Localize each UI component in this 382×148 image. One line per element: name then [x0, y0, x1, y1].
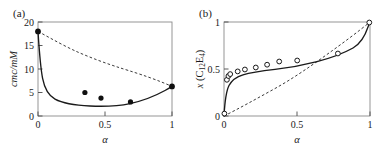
panel-a-axes-frame: [38, 22, 172, 116]
panel-b-ytick-1: 1: [215, 17, 220, 28]
panel-a-xtick-0.5: 0.5: [99, 119, 112, 130]
panel-a-point: [82, 90, 87, 95]
panel-a-point: [169, 84, 175, 90]
panel-b-point: [243, 67, 248, 72]
panel-b-point: [265, 62, 270, 67]
panel-b: (b) 0 0.5 1 0 0.5 1 α: [191, 0, 382, 148]
panel-a-ytick-15: 15: [24, 40, 34, 51]
panel-a-point: [98, 96, 103, 101]
panel-b-point: [253, 65, 258, 70]
panel-b-ytick-0.5: 0.5: [208, 64, 221, 75]
panel-b-data-points: [222, 20, 372, 116]
panel-a-ytick-0: 0: [29, 111, 34, 122]
panel-b-ytick-0: 0: [215, 111, 220, 122]
panel-a-ytick-10: 10: [24, 64, 34, 75]
panel-a-point: [35, 29, 41, 35]
panel-b-xtick-1: 1: [368, 119, 373, 130]
figure-container: (a) 0 5 10 15 20 0 0.5: [0, 0, 382, 148]
panel-a-xtick-1: 1: [170, 119, 175, 130]
panel-b-point: [336, 51, 341, 56]
panel-a-yaxis-title: cmc/mM: [8, 50, 19, 87]
panel-a-ytick-5: 5: [29, 87, 34, 98]
panel-b-point: [222, 111, 227, 116]
panel-b-point: [367, 20, 372, 25]
panel-b-yaxis-paren-open: (C: [194, 70, 206, 83]
panel-b-xaxis-title: α: [294, 134, 300, 145]
panel-a-ideal-mixing-curve: [38, 31, 172, 86]
panel-b-xtick-0: 0: [222, 119, 227, 130]
panel-a-point: [128, 99, 133, 104]
panel-b-plot: (b) 0 0.5 1 0 0.5 1 α: [191, 0, 382, 148]
panel-a-x-ticks: [38, 112, 172, 117]
panel-b-x-ticks: [224, 112, 370, 117]
panel-b-point: [228, 72, 233, 77]
panel-b-point: [235, 69, 240, 74]
panel-b-point: [277, 59, 282, 64]
panel-b-point: [295, 58, 300, 63]
panel-a-fit-curve: [38, 31, 172, 106]
panel-a: (a) 0 5 10 15 20 0 0.5: [0, 0, 191, 148]
panel-b-xtick-0.5: 0.5: [291, 119, 304, 130]
panel-a-xaxis-title: α: [102, 134, 108, 145]
panel-a-plot: (a) 0 5 10 15 20 0 0.5: [0, 0, 191, 148]
panel-a-data-points: [35, 29, 175, 105]
panel-a-ytick-20: 20: [24, 17, 34, 28]
panel-b-yaxis-paren-close: ): [194, 49, 206, 53]
panel-b-yaxis-title: x (C12E4): [194, 49, 207, 89]
panel-a-xtick-0: 0: [36, 119, 41, 130]
panel-b-label: (b): [199, 7, 212, 20]
